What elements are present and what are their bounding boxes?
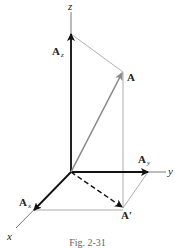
- vector-ay-label-main: A: [138, 153, 146, 165]
- vector-ax-label-subscript: x: [28, 202, 31, 210]
- y-axis-label: y: [168, 166, 173, 177]
- vector-az-label: Az: [52, 46, 64, 59]
- vector-ay-label: Ay: [138, 154, 150, 167]
- vector-ax: [34, 172, 71, 210]
- construction-line-ay-to-aprime: [123, 172, 148, 208]
- vector-ax-label-main: A: [19, 196, 27, 208]
- figure-caption: Fig. 2-31: [0, 237, 175, 248]
- vector-az-label-subscript: z: [61, 51, 64, 59]
- vector-a-prime: [71, 172, 122, 207]
- vector-ax-label: Ax: [19, 197, 31, 210]
- vector-ay-label-subscript: y: [147, 159, 150, 167]
- construction-line-az-to-a: [71, 34, 123, 72]
- vector-az-label-main: A: [52, 45, 60, 57]
- vector-a-prime-label: A′: [121, 210, 132, 221]
- vector-a-label: A: [127, 72, 135, 83]
- z-axis-label: z: [68, 1, 72, 12]
- vector-a: [71, 73, 122, 172]
